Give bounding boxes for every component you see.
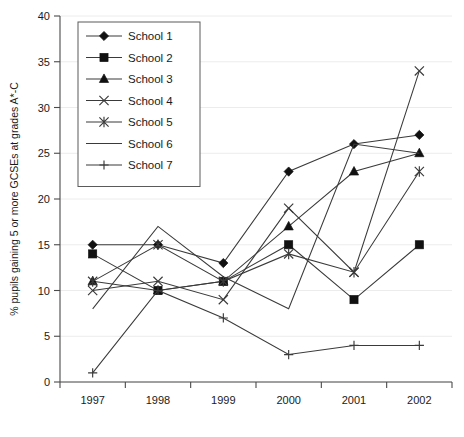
y-tick-label: 25 bbox=[38, 147, 50, 159]
y-tick-label: 0 bbox=[44, 376, 50, 388]
marker-x bbox=[415, 66, 424, 75]
y-axis-title: % pupils gaining 5 or more GCSEs at grad… bbox=[8, 82, 20, 316]
y-tick-label: 10 bbox=[38, 285, 50, 297]
marker-plus bbox=[219, 313, 228, 322]
x-tick-label: 2002 bbox=[407, 394, 431, 406]
marker-diamond bbox=[219, 258, 228, 267]
marker-diamond bbox=[88, 240, 97, 249]
x-tick-label: 2000 bbox=[276, 394, 300, 406]
marker-plus bbox=[415, 341, 424, 350]
marker-plus bbox=[349, 341, 358, 350]
legend-item-school-4[interactable]: School 4 bbox=[86, 95, 173, 107]
marker-asterisk bbox=[415, 166, 424, 177]
marker-plus bbox=[284, 350, 293, 359]
marker-diamond bbox=[284, 167, 293, 176]
y-tick-label: 40 bbox=[38, 10, 50, 22]
marker-asterisk bbox=[284, 249, 293, 260]
legend-label: School 3 bbox=[128, 73, 173, 85]
y-tick-label: 35 bbox=[38, 56, 50, 68]
y-tick-label: 30 bbox=[38, 102, 50, 114]
series-school-7 bbox=[88, 286, 424, 378]
marker-diamond bbox=[415, 130, 424, 139]
marker-x bbox=[284, 204, 293, 213]
y-tick-label: 5 bbox=[44, 330, 50, 342]
series-line bbox=[93, 172, 420, 282]
legend-item-school-5[interactable]: School 5 bbox=[86, 116, 173, 128]
series-line bbox=[93, 291, 420, 373]
legend: School 1School 2School 3School 4School 5… bbox=[78, 22, 200, 187]
y-tick-label: 20 bbox=[38, 193, 50, 205]
marker-square bbox=[285, 241, 293, 249]
chart-canvas: 0510152025303540199719981999200020012002… bbox=[0, 0, 464, 437]
marker-square bbox=[89, 250, 97, 258]
legend-label: School 2 bbox=[128, 52, 173, 64]
legend-label: School 5 bbox=[128, 116, 173, 128]
legend-label: School 6 bbox=[128, 138, 173, 150]
marker-square bbox=[415, 241, 423, 249]
marker-triangle bbox=[284, 221, 293, 230]
x-tick-label: 1998 bbox=[146, 394, 170, 406]
marker-x bbox=[219, 295, 228, 304]
marker-square bbox=[100, 53, 108, 61]
marker-asterisk bbox=[349, 267, 358, 278]
y-tick-label: 15 bbox=[38, 239, 50, 251]
x-tick-label: 1997 bbox=[80, 394, 104, 406]
legend-label: School 7 bbox=[128, 159, 173, 171]
x-tick-label: 2001 bbox=[342, 394, 366, 406]
marker-square bbox=[350, 296, 358, 304]
legend-label: School 1 bbox=[128, 30, 173, 42]
x-tick-label: 1999 bbox=[211, 394, 235, 406]
legend-label: School 4 bbox=[128, 95, 173, 107]
series-line bbox=[93, 245, 420, 300]
gcse-results-line-chart: 0510152025303540199719981999200020012002… bbox=[0, 0, 464, 437]
